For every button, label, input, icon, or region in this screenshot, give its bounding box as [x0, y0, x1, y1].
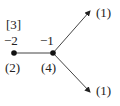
arrow-upper	[53, 11, 90, 53]
node-center-multiplicity-label: (4)	[41, 61, 56, 74]
node-left-multiplicity-label: (2)	[5, 61, 20, 74]
node-center	[50, 50, 56, 56]
arrow-upper-label: (1)	[96, 6, 111, 19]
arrow-lower	[53, 53, 90, 92]
node-left	[11, 50, 17, 56]
node-left-weight-label: −2	[4, 34, 18, 47]
arrow-lower-label: (1)	[96, 84, 111, 97]
node-left-bracket-label: [3]	[6, 18, 21, 31]
node-center-weight-label: −1	[40, 34, 54, 47]
graph-diagram: [3] −2 (2) −1 (4) (1) (1)	[0, 0, 120, 106]
